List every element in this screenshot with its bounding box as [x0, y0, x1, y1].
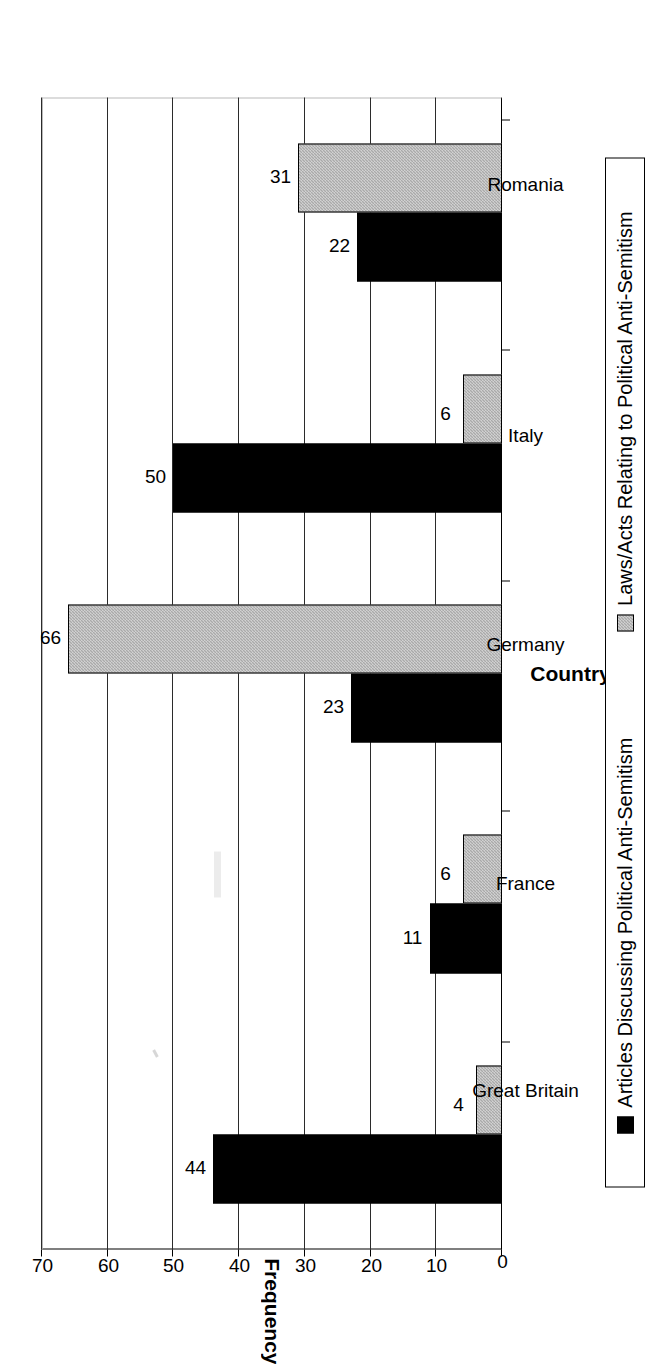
- bar-value-text: 4: [453, 1094, 464, 1113]
- plot-wrap: 010203040506070 444Great Britain116Franc…: [42, 97, 502, 1249]
- bar-value-text: 44: [185, 1158, 206, 1177]
- x-axis-category-label: France: [516, 854, 535, 913]
- y-axis-title: Frequency: [42, 1293, 502, 1329]
- bar-value-label: 66: [41, 627, 60, 648]
- gray-hatched-square-icon: [617, 614, 634, 631]
- bar-france-series0: 11: [430, 903, 502, 972]
- bar-value-label: 11: [403, 928, 422, 948]
- y-axis-tick-label-text: 10: [426, 1256, 447, 1275]
- y-axis-tick-label-text: 30: [295, 1256, 316, 1275]
- bar-italy-series1: 6: [463, 374, 502, 443]
- x-axis-tick: [502, 349, 510, 350]
- x-axis-category-label-text: France: [496, 874, 555, 893]
- bar-value-label: 50: [146, 466, 165, 487]
- bar-romania-series1: 31: [298, 143, 502, 212]
- x-axis-tick: [502, 119, 510, 120]
- y-axis-tick-label: 70: [33, 1255, 52, 1276]
- bar-group: 116France: [42, 788, 502, 1018]
- y-axis-tick-label-text: 40: [229, 1256, 250, 1275]
- bar-value-label: 44: [186, 1157, 205, 1178]
- y-axis-tick-label-text: 60: [98, 1256, 119, 1275]
- bar-group: 506Italy: [42, 327, 502, 557]
- bar-value-label: 6: [436, 407, 455, 418]
- bar-value-label: 4: [449, 1098, 468, 1109]
- y-axis-title-text: Frequency: [262, 1258, 283, 1364]
- scan-speck: [214, 851, 221, 897]
- bar-value-label: 31: [271, 166, 290, 187]
- bar-germany-series1: 66: [68, 604, 502, 673]
- bar-value-text: 66: [40, 628, 61, 647]
- x-axis-category-label: Italy: [516, 417, 535, 452]
- y-axis-tick-label: 20: [362, 1255, 381, 1276]
- bar-value-text: 22: [329, 236, 350, 255]
- bar-value-label: 22: [330, 235, 349, 256]
- bar-italy-series0: 50: [173, 443, 502, 512]
- bar-group: 2231Romania: [42, 97, 502, 327]
- bar-value-text: 23: [323, 697, 344, 716]
- chart-legend: Articles Discussing Political Anti-Semit…: [605, 157, 645, 1187]
- x-axis-category-label-text: Romania: [487, 174, 563, 193]
- bar-great-britain-series0: 44: [213, 1134, 502, 1203]
- legend-item-series0: Articles Discussing Political Anti-Semit…: [615, 737, 635, 1133]
- y-axis-tick-label: 40: [230, 1255, 249, 1276]
- y-axis-tick-label-text: 70: [32, 1256, 53, 1275]
- bar-value-text: 6: [440, 864, 451, 883]
- y-axis-tick-label: 10: [427, 1255, 446, 1276]
- bar-value-label: 6: [436, 868, 455, 879]
- black-square-icon: [617, 1116, 634, 1133]
- x-axis-category-label-text: Italy: [508, 425, 543, 444]
- y-axis-tick-label-text: 20: [361, 1256, 382, 1275]
- x-axis-category-label: Great Britain: [516, 1037, 535, 1144]
- bar-value-label: 23: [324, 696, 343, 717]
- legend-label-series1: Laws/Acts Relating to Political Anti-Sem…: [615, 211, 635, 606]
- x-axis-tick: [502, 580, 510, 581]
- y-axis-tick-label: 30: [296, 1255, 315, 1276]
- y-axis-tick-label-text: 50: [163, 1256, 184, 1275]
- x-axis-category-label-text: Germany: [486, 634, 564, 653]
- y-axis-tick-label: 60: [99, 1255, 118, 1276]
- bar-value-text: 6: [440, 403, 451, 422]
- bar-romania-series0: 22: [357, 212, 502, 281]
- bar-group: 444Great Britain: [42, 1019, 502, 1249]
- bar-germany-series0: 23: [351, 673, 502, 742]
- bar-value-text: 31: [270, 167, 291, 186]
- y-axis-tick-label: 0: [493, 1255, 512, 1266]
- legend-item-series1: Laws/Acts Relating to Political Anti-Sem…: [615, 211, 635, 632]
- legend-label-series0: Articles Discussing Political Anti-Semit…: [615, 737, 635, 1107]
- bar-value-text: 11: [402, 928, 422, 947]
- x-axis-tick: [502, 810, 510, 811]
- y-axis-tick-label-text: 0: [497, 1251, 508, 1270]
- bar-group: 2366Germany: [42, 558, 502, 788]
- x-axis-title-text: Country: [530, 663, 611, 684]
- x-axis-category-label: Romania: [516, 146, 535, 222]
- x-axis-title: Country: [560, 97, 581, 1249]
- bar-value-text: 50: [145, 467, 166, 486]
- y-axis-tick-label: 50: [164, 1255, 183, 1276]
- x-axis-tick: [502, 1041, 510, 1042]
